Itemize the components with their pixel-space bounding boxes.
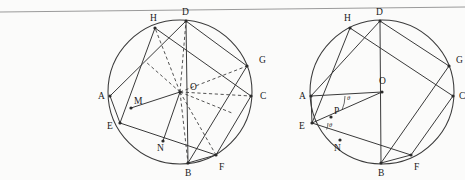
chord-GB — [188, 66, 247, 163]
point-dot-N — [338, 138, 341, 141]
chord-AE — [110, 96, 120, 123]
point-dot-H — [348, 26, 351, 29]
point-dot-F — [409, 153, 412, 156]
point-label-G: G — [456, 55, 463, 65]
point-label-D: D — [376, 7, 383, 17]
chord-AD — [311, 21, 380, 96]
point-label-N: N — [157, 143, 164, 153]
point-dot-A — [108, 94, 111, 97]
chord-AD — [110, 21, 186, 96]
point-dot-B — [186, 161, 189, 164]
angle-arc-theta-at-A — [342, 96, 345, 110]
radius-OD — [180, 21, 186, 92]
chord-HE — [120, 28, 155, 123]
point-label-F: F — [219, 162, 224, 172]
point-dot-H — [153, 26, 156, 29]
point-label-N: N — [334, 143, 341, 153]
radius-OC — [180, 92, 251, 96]
geometry-canvas: AEBFCGDHMN O AEBFCGDHNP θθ O — [0, 0, 465, 180]
chord-CF — [411, 96, 453, 155]
point-dot-F — [214, 153, 217, 156]
radius-OF — [180, 92, 216, 155]
angle-label-theta-at-E: θ — [329, 121, 333, 128]
point-label-M: M — [134, 96, 143, 106]
left-figure: AEBFCGDHMN O — [98, 7, 266, 178]
segment-NO — [163, 92, 180, 141]
point-dot-M — [129, 106, 132, 109]
point-label-H: H — [344, 13, 351, 23]
point-dot-A — [309, 94, 312, 97]
point-dot-C — [249, 94, 252, 97]
point-label-F: F — [414, 162, 419, 172]
point-label-E: E — [299, 121, 305, 131]
point-label-C: C — [260, 91, 266, 101]
point-dot-D — [184, 19, 187, 22]
point-dot-C — [451, 94, 454, 97]
point-dot-P — [329, 115, 332, 118]
point-dot-E — [310, 121, 313, 124]
point-dot-D — [378, 19, 381, 22]
right-center-dot — [380, 90, 383, 93]
left-center-label-O: O — [190, 82, 197, 92]
point-label-B: B — [378, 168, 384, 178]
right-center-label-O: O — [379, 76, 386, 86]
geometry-figure: AEBFCGDHMN O AEBFCGDHNP θθ O — [0, 0, 465, 180]
radius-OK4 — [180, 92, 232, 113]
angle-label-theta-at-A: θ — [347, 94, 351, 101]
chord-HC — [155, 28, 251, 96]
point-label-A: A — [299, 91, 306, 101]
chord-CF — [216, 96, 251, 155]
right-figure: AEBFCGDHNP θθ O — [299, 7, 465, 178]
radius-OK1 — [146, 62, 180, 92]
point-label-G: G — [259, 55, 266, 65]
left-center-dot — [178, 90, 181, 93]
point-label-B: B — [185, 168, 191, 178]
point-label-A: A — [98, 91, 105, 101]
chord-HC — [350, 28, 453, 96]
point-label-C: C — [459, 91, 465, 101]
point-dot-G — [245, 64, 248, 67]
point-label-H: H — [150, 13, 157, 23]
page-edge-line — [0, 7, 465, 12]
point-label-P: P — [334, 106, 339, 116]
radius-OH — [155, 28, 180, 92]
point-dot-E — [118, 121, 121, 124]
point-label-D: D — [182, 7, 189, 17]
chord-AE — [311, 96, 312, 123]
point-dot-G — [447, 64, 450, 67]
point-label-E: E — [107, 121, 113, 131]
chord-DG — [186, 21, 247, 66]
chord-GB — [381, 66, 449, 163]
point-dot-B — [379, 161, 382, 164]
